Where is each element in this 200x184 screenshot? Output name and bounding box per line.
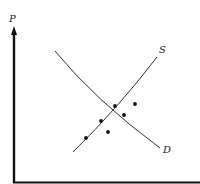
supply-demand-chart: P D S bbox=[0, 0, 200, 184]
y-axis-label: P bbox=[8, 13, 16, 24]
data-point bbox=[113, 104, 117, 108]
supply-curve-label: S bbox=[159, 44, 166, 55]
data-point bbox=[84, 136, 88, 140]
y-axis-arrow-icon bbox=[11, 26, 17, 35]
demand-curve-label: D bbox=[162, 144, 171, 155]
data-point bbox=[106, 130, 110, 134]
data-point bbox=[122, 113, 126, 117]
data-point bbox=[99, 119, 103, 123]
data-point bbox=[133, 102, 137, 106]
